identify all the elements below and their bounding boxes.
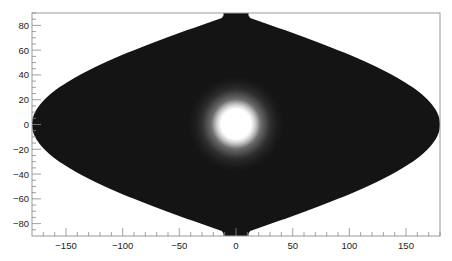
x-tick-label: −100 — [112, 240, 133, 251]
sky-map-chart: −150−100−50050100150 806040200−20−40−60−… — [0, 0, 452, 261]
y-tick-label: 20 — [18, 94, 29, 105]
x-tick-label: −150 — [55, 240, 76, 251]
y-tick-label: −60 — [13, 193, 29, 204]
y-tick-label: 0 — [24, 119, 29, 130]
x-tick-label: 50 — [287, 240, 298, 251]
x-tick-label: 100 — [341, 240, 357, 251]
y-tick-label: 40 — [18, 69, 29, 80]
y-tick-label: 80 — [18, 20, 29, 31]
y-tick-label: −20 — [13, 144, 29, 155]
x-tick-label: 150 — [398, 240, 414, 251]
hotspot — [186, 76, 286, 172]
y-tick-label: 60 — [18, 45, 29, 56]
y-tick-label: −80 — [13, 218, 29, 229]
y-tick-label: −40 — [13, 169, 29, 180]
x-tick-label: −50 — [171, 240, 187, 251]
x-tick-label: 0 — [233, 240, 238, 251]
